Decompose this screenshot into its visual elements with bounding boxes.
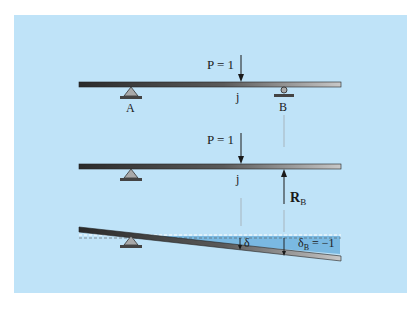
support-a-label: A [126, 101, 135, 115]
support-b-label: B [279, 100, 287, 114]
diagram-2-beam [79, 164, 341, 169]
roller-support-b-icon [274, 87, 294, 97]
reaction-label: RB [290, 190, 306, 207]
load-label-1: P = 1 [207, 57, 234, 72]
beam-influence-line-diagram: P = 1 j A B P = 1 j RB [0, 0, 420, 310]
deflection-b-label: δB = −1 [298, 236, 335, 252]
deflection-j-label: δ [244, 236, 250, 250]
pin-support-a-icon [120, 87, 142, 99]
load-arrow-2 [238, 133, 244, 164]
pin-support-a-icon-2 [120, 169, 142, 181]
diagram-1-beam [79, 82, 341, 87]
point-j-label-1: j [235, 90, 239, 104]
load-label-2: P = 1 [207, 132, 234, 147]
load-arrow-1 [238, 55, 244, 82]
point-j-label-2: j [235, 172, 239, 186]
reaction-arrow-rb [281, 169, 287, 204]
